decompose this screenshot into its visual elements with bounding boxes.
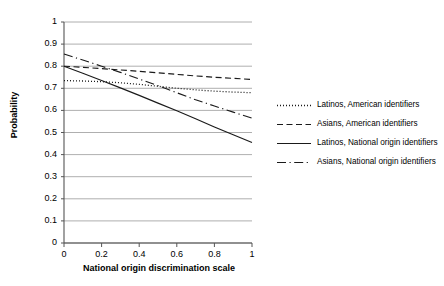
legend-swatch-solid xyxy=(277,142,311,145)
legend-item: Latinos, American identifiers xyxy=(277,100,444,111)
y-tick-label: 0.7 xyxy=(31,82,57,92)
x-tick-label: 0.6 xyxy=(162,249,192,259)
chart-legend: Latinos, American identifiersAsians, Ame… xyxy=(277,100,444,176)
legend-label: Asians, American identifiers xyxy=(317,119,444,130)
legend-item: Asians, National origin identifiers xyxy=(277,157,444,168)
y-axis-label: Probability xyxy=(9,75,19,155)
legend-swatch-dash-dot xyxy=(277,161,311,164)
legend-item: Latinos, National origin identifiers xyxy=(277,138,444,149)
x-axis-label: National origin discrimination scale xyxy=(64,263,254,273)
x-tick-label: 1 xyxy=(237,249,267,259)
y-tick-label: 0.5 xyxy=(31,127,57,137)
y-tick-label: 1 xyxy=(31,16,57,26)
series-line xyxy=(64,81,252,93)
x-tick-label: 0.2 xyxy=(87,249,117,259)
y-tick-label: 0.4 xyxy=(31,149,57,159)
y-tick-label: 0.8 xyxy=(31,60,57,70)
legend-label: Latinos, National origin identifiers xyxy=(317,138,444,149)
legend-swatch-dashed xyxy=(277,123,311,126)
y-tick-label: 0.2 xyxy=(31,193,57,203)
y-tick-label: 0 xyxy=(31,237,57,247)
x-tick-label: 0 xyxy=(49,249,79,259)
series-line xyxy=(64,54,252,118)
series-line xyxy=(64,66,252,142)
legend-swatch-dotted xyxy=(277,104,311,107)
y-tick-label: 0.1 xyxy=(31,215,57,225)
y-tick-label: 0.3 xyxy=(31,171,57,181)
y-tick-label: 0.6 xyxy=(31,104,57,114)
legend-label: Latinos, American identifiers xyxy=(317,100,444,111)
x-tick-label: 0.8 xyxy=(199,249,229,259)
x-tick-label: 0.4 xyxy=(124,249,154,259)
legend-label: Asians, National origin identifiers xyxy=(317,157,444,168)
y-tick-label: 0.9 xyxy=(31,38,57,48)
legend-item: Asians, American identifiers xyxy=(277,119,444,130)
chart-figure: Probability National origin discriminati… xyxy=(0,0,444,286)
